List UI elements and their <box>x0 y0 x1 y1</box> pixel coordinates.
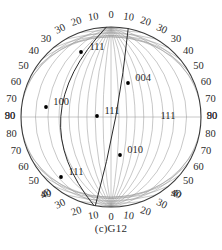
trace-left <box>60 27 106 205</box>
pole-marker <box>44 105 48 109</box>
tick-label-left: 50 <box>28 175 39 186</box>
pole-markers: 111004100111111010111 <box>44 41 175 178</box>
tick-label-left: 70 <box>11 145 22 156</box>
tick-label-top: 10 <box>87 10 99 22</box>
tick-label-top: 30 <box>155 21 169 35</box>
pole-label: 111 <box>90 41 105 52</box>
tick-label-left: 60 <box>11 76 22 87</box>
tick-label-right: 30 <box>171 33 182 44</box>
tick-label-bottom: 30 <box>155 196 169 210</box>
wulff-net-svg: 1110041001111110101113020100102030403020… <box>0 0 222 250</box>
tick-label-left: 50 <box>18 60 29 71</box>
tick-label-right: 40 <box>171 188 182 199</box>
tick-label-right: 50 <box>193 60 204 71</box>
tick-label-top: 30 <box>53 21 67 35</box>
tick-label-bottom: 20 <box>139 204 152 218</box>
pole-marker <box>79 50 83 54</box>
tick-label-right: 40 <box>183 45 194 56</box>
tick-label-left: 40 <box>28 45 39 56</box>
tick-label-left: 40 <box>41 188 52 199</box>
pole-label: 111 <box>161 110 176 121</box>
pole-marker <box>95 114 99 118</box>
tick-label-bottom: 30 <box>53 196 67 210</box>
tick-label-left: 80 <box>6 128 17 139</box>
tick-label-right: 50 <box>183 175 194 186</box>
tick-label-bottom: 0 <box>108 211 113 222</box>
tick-label-bottom: 10 <box>123 209 135 221</box>
pole-marker <box>59 175 63 179</box>
figure-caption: (c)G12 <box>0 222 222 234</box>
tick-label-right: 60 <box>201 76 212 87</box>
pole-label: 111 <box>69 166 84 177</box>
tick-label-top: 20 <box>139 14 152 28</box>
tick-label-bottom: 20 <box>70 204 83 218</box>
pole-label: 111 <box>105 105 120 116</box>
tick-label-left: 70 <box>6 93 17 104</box>
tick-label-right: 70 <box>205 93 216 104</box>
tick-label-top: 20 <box>70 14 83 28</box>
pole-label: 004 <box>135 72 152 83</box>
tick-label-top: 10 <box>123 10 135 22</box>
tick-label-left: 60 <box>18 161 29 172</box>
stereographic-projection-figure: 1110041001111110101113020100102030403020… <box>0 0 222 250</box>
pole-label: 010 <box>127 144 143 155</box>
tick-label-right: 80 <box>205 128 216 139</box>
tick-label-left: 80 <box>5 110 16 121</box>
pole-label: 100 <box>53 96 69 107</box>
tick-label-top: 0 <box>108 9 113 20</box>
tick-label-right: 80 <box>207 110 218 121</box>
tick-label-bottom: 10 <box>87 209 99 221</box>
pole-marker <box>118 153 122 157</box>
tick-label-right: 60 <box>193 161 204 172</box>
tick-label-left: 30 <box>41 33 52 44</box>
pole-marker <box>126 81 130 85</box>
tick-label-right: 70 <box>201 145 212 156</box>
